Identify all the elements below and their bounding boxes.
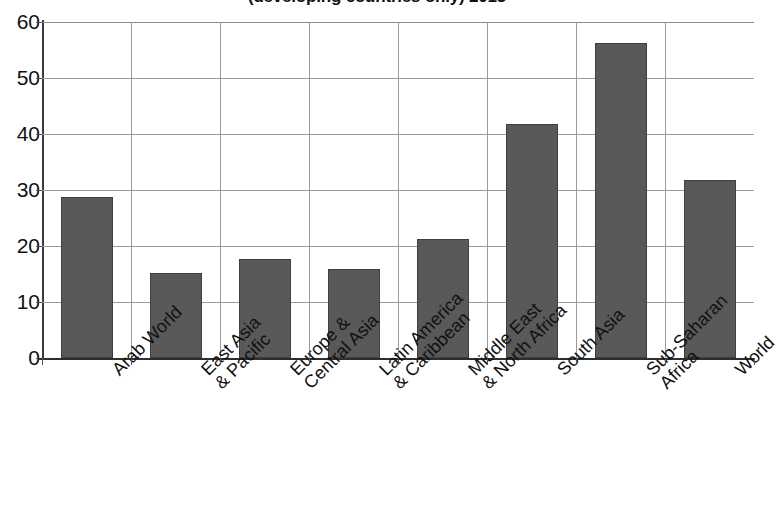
bar — [61, 197, 113, 358]
gridline-vertical — [131, 22, 132, 358]
y-axis-tick-label: 30 — [4, 178, 40, 202]
plot-area — [42, 22, 754, 358]
x-axis-tick-label: Latin America & Caribbean — [376, 366, 403, 393]
x-axis-tick-mark — [576, 358, 577, 365]
gridline-vertical — [309, 22, 310, 358]
y-axis-tick-label: 50 — [4, 66, 40, 90]
x-axis-tick-label: Middle East & North Africa — [465, 366, 492, 393]
y-axis-tick-label: 60 — [4, 10, 40, 34]
x-axis-tick-mark — [131, 358, 132, 365]
x-axis-tick-labels: Arab WorldEast Asia & PacificEurope & Ce… — [0, 358, 754, 517]
gridline-vertical — [487, 22, 488, 358]
x-axis-tick-label: Sub-Saharan Africa — [643, 366, 670, 393]
gridline-vertical — [665, 22, 666, 358]
gridline-vertical — [576, 22, 577, 358]
x-axis-tick-label: Arab World — [109, 366, 122, 379]
x-axis-tick-label: World — [732, 366, 745, 379]
x-axis-tick-mark — [487, 358, 488, 365]
x-axis-tick-label: East Asia & Pacific — [198, 366, 225, 393]
gridline-vertical — [220, 22, 221, 358]
x-axis-tick-mark — [42, 358, 43, 365]
chart-title: (developing countries only) 2013 — [0, 0, 754, 7]
x-axis-tick-mark — [309, 358, 310, 365]
x-axis-tick-label: South Asia — [554, 366, 567, 379]
x-axis-tick-label: Europe & Central Asia — [287, 366, 314, 393]
x-axis-tick-mark — [220, 358, 221, 365]
y-axis-tick-label: 40 — [4, 122, 40, 146]
y-axis-tick-label: 10 — [4, 290, 40, 314]
x-axis-tick-mark — [398, 358, 399, 365]
y-axis-tick-label: 20 — [4, 234, 40, 258]
x-axis-tick-mark — [665, 358, 666, 365]
x-axis-tick-mark — [754, 358, 755, 365]
gridline-vertical — [398, 22, 399, 358]
